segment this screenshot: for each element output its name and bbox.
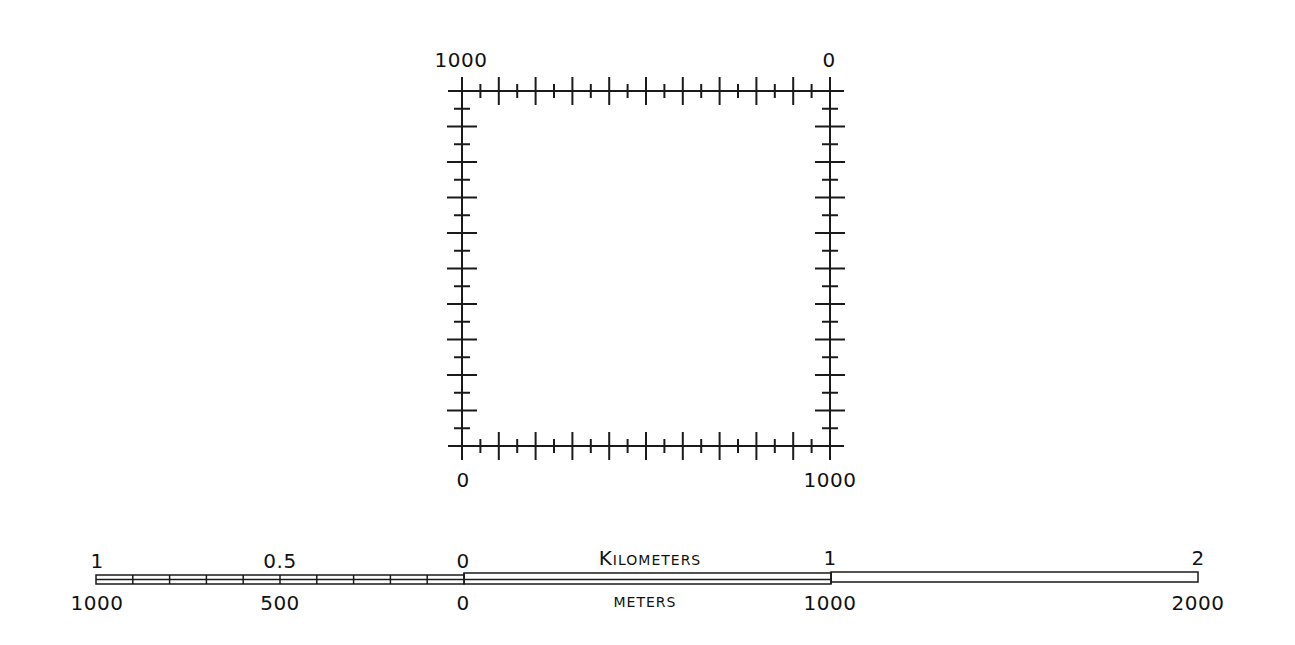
m-label-500: 500 — [260, 593, 300, 613]
km-label-1-right: 1 — [823, 548, 836, 568]
scale-bar-right-segment — [831, 572, 1198, 582]
m-unit-label: meters — [614, 590, 677, 610]
km-label-1-left: 1 — [90, 551, 103, 571]
frame-label-top-right: 0 — [822, 50, 835, 70]
km-label-0-5: 0.5 — [263, 551, 296, 571]
frame-label-bottom-left: 0 — [456, 470, 469, 490]
m-label-1000-left: 1000 — [71, 593, 124, 613]
km-label-0: 0 — [456, 551, 469, 571]
m-label-0: 0 — [456, 593, 469, 613]
scale-bar — [96, 572, 1198, 584]
frame-label-bottom-right: 1000 — [804, 470, 857, 490]
km-label-2: 2 — [1191, 548, 1204, 568]
m-label-1000-right: 1000 — [804, 593, 857, 613]
m-label-2000: 2000 — [1172, 593, 1225, 613]
scale-bar-primary-segment — [464, 573, 831, 584]
km-unit-label: Kilometers — [599, 548, 702, 568]
square-grid-frame — [447, 77, 845, 460]
frame-label-top-left: 1000 — [435, 50, 488, 70]
